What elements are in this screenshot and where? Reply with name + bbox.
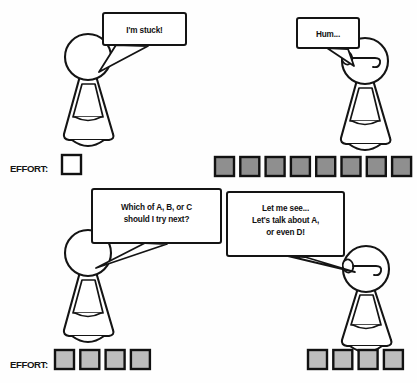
effort-cell-icon (392, 157, 411, 176)
speech-bubble-top-left: I'm stuck! (99, 13, 186, 72)
effort-row-bottom-left: EFFORT: (10, 350, 150, 370)
effort-cell-icon (215, 157, 234, 176)
comic-canvas: I'm stuck! Hum... Which of A, B, or C sh… (0, 0, 417, 383)
effort-cell-icon (359, 350, 378, 369)
effort-row-top-right (215, 157, 411, 176)
effort-cell-icon (384, 350, 403, 369)
effort-cell-icon (106, 350, 125, 369)
effort-cell-icon (55, 350, 74, 369)
effort-label: EFFORT: (10, 359, 48, 370)
comic-scene: I'm stuck! Hum... Which of A, B, or C sh… (0, 0, 417, 383)
bubble-text-line: Hum... (316, 30, 340, 39)
effort-cell-icon (333, 350, 352, 369)
effort-row-top-left: EFFORT: (10, 155, 81, 174)
figure-bottom-left (64, 230, 114, 342)
figure-top-left (64, 34, 114, 146)
speech-bubble-top-right: Hum... (297, 18, 359, 66)
pawn-base-icon (349, 144, 381, 150)
bubble-text-line: should I try next? (124, 215, 190, 224)
bubble-text-line: or even D! (266, 228, 305, 237)
effort-cell-icon (342, 157, 361, 176)
effort-cell-icon (291, 157, 310, 176)
bubble-text-line: I'm stuck! (126, 26, 162, 35)
effort-cell-icon (308, 350, 327, 369)
pawn-base-icon (72, 140, 104, 146)
pawn-base-icon (72, 336, 104, 342)
effort-cell-icon (62, 155, 81, 174)
effort-row-bottom-right (308, 350, 403, 369)
effort-cell-icon (240, 157, 259, 176)
speech-bubble-bottom-right: Let me see... Let's talk about A, or eve… (227, 192, 355, 272)
effort-cell-icon (266, 157, 285, 176)
figure-bottom-right (342, 246, 392, 352)
bubble-text-line: Let me see... (262, 204, 309, 213)
effort-cell-icon (131, 350, 150, 369)
bubble-text-line: Which of A, B, or C (121, 203, 192, 212)
effort-cell-icon (316, 157, 335, 176)
effort-cell-icon (367, 157, 386, 176)
effort-label: EFFORT: (10, 163, 48, 174)
effort-cell-icon (80, 350, 99, 369)
bubble-text-line: Let's talk about A, (252, 216, 319, 225)
